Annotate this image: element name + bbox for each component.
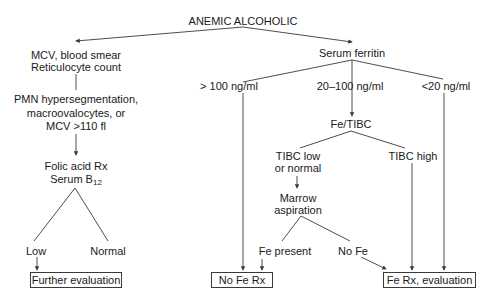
no-fe-rx-box: No Fe Rx bbox=[211, 272, 273, 288]
ferritin-gt100-label: > 100 ng/ml bbox=[200, 80, 258, 93]
fe-present-label: Fe present bbox=[259, 245, 312, 258]
arrow-root-to-mcv bbox=[76, 27, 243, 41]
fe-tibc-label: Fe/TIBC bbox=[331, 118, 372, 131]
mcv-110-label: MCV >110 fl bbox=[46, 120, 106, 133]
fe-rx-evaluation-box: Fe Rx, evaluation bbox=[383, 272, 476, 288]
no-fe-label: No Fe bbox=[338, 245, 368, 258]
serum-ferritin-label: Serum ferritin bbox=[319, 47, 385, 60]
macroovalocytes-label: macroovalocytes, or bbox=[27, 107, 125, 120]
tibc-high-label: TIBC high bbox=[389, 150, 438, 163]
serum-b-text: Serum B bbox=[50, 173, 93, 185]
line-marrow-to-nofe bbox=[301, 216, 350, 241]
arrow-nofe-to-ferx bbox=[361, 257, 386, 269]
ferritin-20-100-label: 20–100 ng/ml bbox=[317, 80, 384, 93]
root-node: ANEMIC ALCOHOLIC bbox=[189, 15, 298, 28]
line-ferritin-to-lt20 bbox=[352, 60, 443, 79]
line-fetibc-to-tibclow bbox=[300, 131, 351, 148]
line-ferritin-to-gt100 bbox=[243, 60, 352, 82]
serum-b12-label: Serum B12 bbox=[50, 173, 102, 186]
line-b12-to-normal bbox=[75, 188, 108, 241]
pmn-label: PMN hypersegmentation, bbox=[14, 93, 138, 106]
arrow-root-to-ferritin bbox=[243, 27, 352, 42]
line-marrow-to-fepresent bbox=[282, 216, 301, 241]
flowchart-canvas: ANEMIC ALCOHOLIC MCV, blood smear Reticu… bbox=[0, 0, 486, 305]
outcome-normal: Normal bbox=[90, 245, 125, 258]
outcome-low: Low bbox=[26, 245, 46, 258]
line-b12-to-low bbox=[34, 188, 75, 241]
b12-subscript: 12 bbox=[93, 178, 102, 187]
ferritin-lt20-label: <20 ng/ml bbox=[422, 80, 471, 93]
folic-acid-label: Folic acid Rx bbox=[45, 160, 108, 173]
line-fetibc-to-tibchigh bbox=[351, 131, 405, 148]
tibc-normal-label: or normal bbox=[275, 162, 321, 175]
aspiration-label: aspiration bbox=[274, 204, 322, 217]
further-evaluation-box: Further evaluation bbox=[30, 272, 122, 288]
reticulocyte-label: Reticulocyte count bbox=[31, 61, 121, 74]
